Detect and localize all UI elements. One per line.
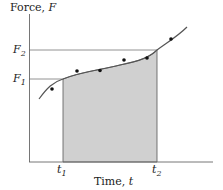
y-axis-label: Force, F bbox=[10, 1, 56, 14]
f1-label: F1 bbox=[13, 72, 26, 87]
x-axis-label: Time, t bbox=[94, 175, 133, 188]
f2-label: F2 bbox=[13, 43, 26, 58]
t1-label: t1 bbox=[57, 163, 67, 178]
t2-label: t2 bbox=[152, 163, 162, 178]
force-time-diagram bbox=[0, 0, 223, 190]
